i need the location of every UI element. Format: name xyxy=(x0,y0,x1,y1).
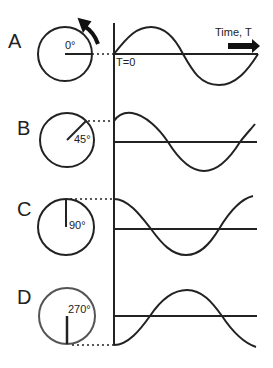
angle-label-a: 0° xyxy=(65,39,76,51)
wave-d xyxy=(114,290,256,347)
row-letter-c: C xyxy=(17,198,31,220)
time-arrow-shaft xyxy=(228,43,253,49)
angle-label-b: 45° xyxy=(74,133,91,145)
wave-c xyxy=(114,196,253,255)
rotation-arrow-icon xyxy=(84,26,98,44)
row-d: D 270° xyxy=(17,286,257,347)
row-letter-d: D xyxy=(17,286,31,308)
row-letter-b: B xyxy=(17,117,30,139)
angle-label-c: 90° xyxy=(69,219,86,231)
angle-label-d: 270° xyxy=(68,303,91,315)
row-b: B 45° xyxy=(17,113,257,171)
row-letter-a: A xyxy=(8,30,22,52)
time-arrow-icon xyxy=(252,39,260,53)
row-a: A 0° T=0 Time, T xyxy=(8,14,260,85)
time-label: Time, T xyxy=(215,26,252,38)
row-c: C 90° xyxy=(17,196,257,255)
phase-diagram: A 0° T=0 Time, T B 45° C 90° D xyxy=(0,0,273,368)
origin-label: T=0 xyxy=(116,56,135,68)
